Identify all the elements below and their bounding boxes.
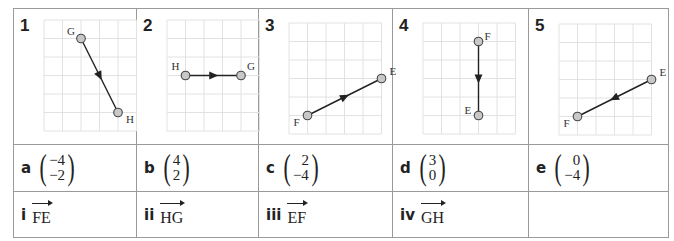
empty-cell [529,192,669,238]
svg-text:E: E [660,66,667,78]
column-vector-cell: c(2−4) [259,145,393,192]
column-vector: (2−4) [281,152,321,185]
grid-row: 1GH 2HG 3FE 4FE 5EF [14,9,669,145]
arrow-icon [441,200,446,206]
vector-grid-3: FE [283,17,400,148]
vector-name-cell: iFE [14,192,137,238]
vector-top: 0 [573,153,581,168]
grid-cell-5: 5EF [529,9,669,145]
option-label: ii [144,206,154,224]
vector-top: 4 [173,153,181,168]
grid-cell-2: 2HG [137,9,259,145]
vector-bottom: −2 [49,168,65,183]
option-label: iv [400,206,415,224]
option-label: c [266,159,275,177]
vector-name-cell: iiHG [137,192,259,238]
option-label: iii [266,206,281,224]
vector-grid-4: FE [417,17,534,148]
svg-text:F: F [294,116,300,128]
option-label: i [21,206,26,224]
vector-name-text: FE [32,209,51,226]
vector-arrow-name: GH [421,202,444,227]
option-label: b [144,159,155,177]
cropped-instruction-text [0,0,674,3]
vector-name-text: EF [287,209,306,226]
option-label: a [21,159,31,177]
grid-cell-1: 1GH [14,9,137,145]
column-vector-cell: b(42) [137,145,259,192]
grid-number: 1 [20,16,29,36]
option-label: d [400,159,411,177]
column-vector-cell: a(−4−2) [14,145,137,192]
vector-name-text: HG [160,209,183,226]
option-label: e [536,159,546,177]
column-vector: (0−4) [552,152,592,185]
vector-bottom: 0 [429,168,437,183]
svg-text:G: G [247,60,255,72]
grid-number: 3 [265,16,274,36]
vector-bottom: −4 [293,168,309,183]
vector-arrow-name: FE [32,202,51,227]
vector-name-cell: ivGH [393,192,529,238]
vector-top: 3 [429,153,437,168]
arrow-icon [180,200,185,206]
vector-arrow-name: EF [287,202,306,227]
column-vector-row: a(−4−2) b(42) c(2−4) d(30) e(0−4) [14,145,669,192]
svg-text:F: F [564,117,570,129]
arrow-icon [48,200,53,206]
grid-cell-4: 4FE [393,9,529,145]
column-vector-cell: d(30) [393,145,529,192]
column-vector: (42) [161,152,193,185]
arrow-icon [303,200,308,206]
column-vector-cell: e(0−4) [529,145,669,192]
vector-matching-table: 1GH 2HG 3FE 4FE 5EF a(−4−2) b(42) c(2−4)… [13,8,669,238]
vector-name-row: iFE iiHG iiiEF ivGH [14,192,669,238]
vector-grid-5: EF [553,18,670,149]
grid-cell-3: 3FE [259,9,393,145]
vector-arrow-name: HG [160,202,183,227]
svg-text:E: E [465,104,472,116]
column-vector: (30) [417,152,449,185]
vector-top: 2 [301,153,309,168]
svg-text:H: H [126,113,134,125]
svg-text:F: F [485,30,491,42]
svg-text:G: G [67,25,75,37]
svg-text:H: H [172,60,180,72]
vector-top: −4 [49,153,65,168]
vector-bottom: 2 [173,168,181,183]
vector-bottom: −4 [564,168,580,183]
vector-name-text: GH [421,209,444,226]
grid-number: 5 [535,16,544,36]
grid-number: 4 [399,16,408,36]
grid-number: 2 [143,16,152,36]
column-vector: (−4−2) [37,152,77,185]
vector-name-cell: iiiEF [259,192,393,238]
